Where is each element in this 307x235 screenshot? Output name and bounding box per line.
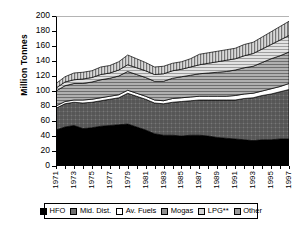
x-tick-mark [92, 166, 93, 169]
legend-swatch-icon [161, 208, 168, 215]
x-tick-mark [235, 166, 236, 169]
x-tick-mark [110, 166, 111, 169]
x-tick-label: 1991 [231, 171, 239, 189]
chart-legend: HFOMid. Dist.Av. FuelsMogasLPG**Other [44, 203, 258, 219]
legend-label: Other [243, 207, 262, 215]
legend-label: LPG** [208, 207, 229, 215]
x-tick-mark [280, 166, 281, 169]
legend-swatch-icon [70, 208, 77, 215]
y-tick-label: 120 [28, 71, 50, 80]
area-series-svg [56, 16, 289, 166]
legend-label: Mogas [171, 207, 194, 215]
x-tick-mark [217, 166, 218, 169]
x-tick-label: 1985 [177, 171, 185, 189]
x-tick-mark [74, 166, 75, 169]
y-tick-label: 80 [28, 101, 50, 110]
x-tick-mark [164, 166, 165, 169]
y-tick-label: 0 [28, 161, 50, 170]
x-tick-mark [208, 166, 209, 169]
legend-item-hfo[interactable]: HFO [40, 207, 65, 215]
x-tick-label: 1971 [52, 171, 60, 189]
x-tick-mark [262, 166, 263, 169]
legend-swatch-icon [116, 208, 123, 215]
y-tick-label: 200 [28, 11, 50, 20]
x-tick-label: 1973 [70, 171, 78, 189]
x-tick-mark [253, 166, 254, 169]
legend-item-av-fuels[interactable]: Av. Fuels [116, 207, 156, 215]
x-tick-mark [56, 166, 57, 169]
x-tick-mark [101, 166, 102, 169]
x-tick-mark [137, 166, 138, 169]
x-tick-mark [226, 166, 227, 169]
x-tick-label: 1997 [285, 171, 293, 189]
x-tick-mark [190, 166, 191, 169]
y-tick-label: 180 [28, 26, 50, 35]
x-tick-mark [199, 166, 200, 169]
y-tick-label: 100 [28, 86, 50, 95]
x-tick-label: 1989 [213, 171, 221, 189]
x-tick-label: 1977 [106, 171, 114, 189]
x-tick-label: 1981 [142, 171, 150, 189]
x-tick-mark [244, 166, 245, 169]
x-tick-label: 1993 [249, 171, 257, 189]
plot-area [56, 16, 289, 166]
y-tick-label: 60 [28, 116, 50, 125]
stacked-area-chart: Million Tonnes 2001801601401201008060402… [0, 0, 307, 235]
legend-item-lpg[interactable]: LPG** [198, 207, 228, 215]
x-tick-mark [289, 166, 290, 169]
x-tick-label: 1979 [124, 171, 132, 189]
x-tick-mark [128, 166, 129, 169]
legend-swatch-icon [234, 208, 241, 215]
legend-item-mogas[interactable]: Mogas [161, 207, 193, 215]
legend-item-mid-dist[interactable]: Mid. Dist. [70, 207, 111, 215]
x-tick-mark [271, 166, 272, 169]
x-tick-label: 1983 [160, 171, 168, 189]
x-tick-mark [146, 166, 147, 169]
legend-label: Mid. Dist. [80, 207, 111, 215]
x-tick-label: 1987 [195, 171, 203, 189]
x-tick-label: 1975 [88, 171, 96, 189]
x-tick-label: 1995 [267, 171, 275, 189]
x-tick-mark [155, 166, 156, 169]
y-tick-label: 40 [28, 131, 50, 140]
x-tick-mark [83, 166, 84, 169]
legend-item-other[interactable]: Other [234, 207, 262, 215]
x-tick-mark [65, 166, 66, 169]
legend-label: Av. Fuels [126, 207, 157, 215]
legend-swatch-icon [198, 208, 205, 215]
x-tick-mark [181, 166, 182, 169]
legend-label: HFO [50, 207, 66, 215]
x-tick-mark [173, 166, 174, 169]
y-tick-label: 20 [28, 146, 50, 155]
legend-swatch-icon [40, 208, 47, 215]
y-tick-label: 140 [28, 56, 50, 65]
x-tick-mark [119, 166, 120, 169]
y-tick-label: 160 [28, 41, 50, 50]
